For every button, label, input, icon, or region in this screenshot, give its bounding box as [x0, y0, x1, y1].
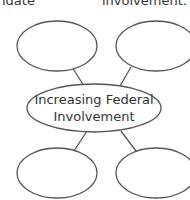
connector-bottom-right	[121, 131, 136, 151]
node-top-right	[116, 21, 190, 71]
connector-top-right	[120, 67, 131, 86]
node-top-left	[17, 21, 97, 71]
node-bottom-left	[17, 148, 97, 198]
center-label-line2: Involvement	[53, 109, 134, 124]
web-diagram: Increasing Federal Involvement	[0, 0, 190, 200]
connector-bottom-left	[74, 131, 87, 151]
center-label-line1: Increasing Federal	[34, 92, 153, 107]
node-bottom-right	[116, 148, 190, 198]
connector-top-left	[72, 67, 84, 86]
